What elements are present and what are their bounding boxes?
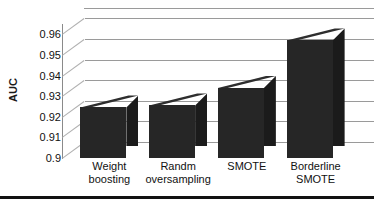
bar-side-face [195,93,207,146]
bar-front-face [287,40,333,158]
bar-column [287,40,333,158]
bar-front-face [149,105,195,158]
x-tick-label-line: boosting [89,173,131,185]
x-tick-label-line: oversampling [145,173,210,185]
figure-container: AUC 0.90.910.920.930.940.950.96 Weightbo… [0,0,374,205]
bar-column [149,105,195,158]
page-divider-rule [0,196,374,199]
bar-front-face [218,88,264,158]
x-tick-label-line: Randm [160,160,195,172]
x-tick-label: BorderlineSMOTE [266,160,366,186]
bar-column [80,107,126,158]
x-tick-label-line: Weight [92,160,126,172]
bar-chart: AUC 0.90.910.920.930.940.950.96 Weightbo… [0,0,374,196]
bar-side-face [333,28,345,146]
x-tick-label-line: SMOTE [227,160,266,172]
x-axis-tick-labels: WeightboostingRandmoversamplingSMOTEBord… [0,160,374,196]
bar-side-face [126,95,138,146]
bar-front-face [80,107,126,158]
x-tick-label-line: Borderline [291,160,341,172]
bar-column [218,88,264,158]
bar-side-face [264,76,276,146]
x-tick-label-line: SMOTE [296,173,335,185]
